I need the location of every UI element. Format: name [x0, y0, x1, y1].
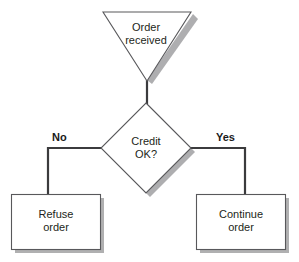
- connector-decision-to-continue: [191, 148, 245, 195]
- flowchart-graphics: [0, 0, 299, 262]
- flowchart-canvas: Order received Credit OK? Refuse order C…: [0, 0, 299, 262]
- continue-node-shape[interactable]: [197, 195, 286, 250]
- decision-node-shape[interactable]: [101, 103, 191, 193]
- connector-decision-to-refuse: [48, 148, 101, 195]
- refuse-node-shape[interactable]: [12, 195, 101, 250]
- branch-label-yes: Yes: [216, 131, 235, 143]
- branch-label-no: No: [52, 131, 67, 143]
